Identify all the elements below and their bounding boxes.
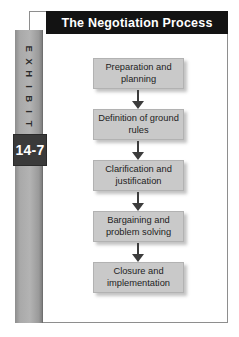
flow-arrow-4: [93, 242, 184, 262]
arrow-head-icon: [132, 254, 144, 262]
flow-box-bargaining-and-problem-solving: Bargaining and problem solving: [93, 211, 184, 242]
flow-arrow-3: [93, 191, 184, 211]
arrow-head-icon: [132, 101, 144, 109]
flow-box-preparation-and-planning: Preparation and planning: [93, 58, 184, 89]
exhibit-side-tab: E X H I B I T: [15, 30, 43, 323]
flow-box-closure-and-implementation: Closure and implementation: [93, 262, 184, 293]
page-title: The Negotiation Process: [61, 16, 212, 30]
exhibit-number-text: 14-7: [15, 142, 44, 158]
arrow-head-icon: [132, 203, 144, 211]
flow-arrow-1: [93, 89, 184, 109]
exhibit-number-plate: 14-7: [13, 134, 47, 166]
flow-step-1: Preparation and planning: [93, 58, 184, 89]
arrow-head-icon: [132, 152, 144, 160]
flow-box-label: Definition of ground rules: [98, 113, 179, 136]
flow-box-label: Closure and implementation: [98, 266, 179, 289]
flow-box-label: Preparation and planning: [98, 62, 179, 85]
exhibit-title-banner: The Negotiation Process: [46, 11, 228, 34]
flow-box-definition-of-ground-rules: Definition of ground rules: [93, 109, 184, 140]
exhibit-figure: The Negotiation Process E X H I B I T 14…: [0, 0, 239, 337]
negotiation-process-flowchart: Preparation and planning Definition of g…: [93, 58, 184, 293]
flow-step-3: Clarification and justification: [93, 160, 184, 191]
flow-box-clarification-and-justification: Clarification and justification: [93, 160, 184, 191]
exhibit-tab-label: E X H I B I T: [15, 44, 43, 132]
flow-step-5: Closure and implementation: [93, 262, 184, 293]
flow-step-2: Definition of ground rules: [93, 109, 184, 140]
flow-box-label: Clarification and justification: [98, 164, 179, 187]
flow-arrow-2: [93, 140, 184, 160]
flow-box-label: Bargaining and problem solving: [98, 215, 179, 238]
flow-step-4: Bargaining and problem solving: [93, 211, 184, 242]
